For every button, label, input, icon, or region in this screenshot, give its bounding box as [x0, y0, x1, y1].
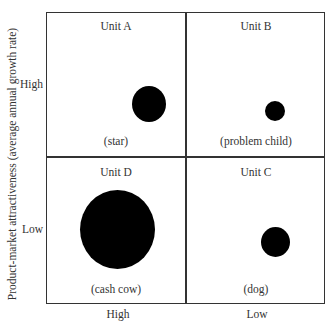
x-tick-high: High	[107, 308, 130, 320]
y-axis-title: Product-market attractiveness (average a…	[6, 28, 18, 300]
unit-d-bubble	[80, 190, 155, 269]
horizontal-divider	[46, 156, 325, 158]
unit-d-label: Unit D	[100, 166, 132, 178]
unit-a-label: Unit A	[101, 20, 132, 32]
unit-c-bubble	[261, 227, 290, 257]
unit-b-label: Unit B	[241, 20, 272, 32]
unit-a-category: (star)	[104, 135, 128, 147]
unit-d-category: (cash cow)	[91, 283, 141, 295]
x-tick-low: Low	[246, 308, 267, 320]
y-tick-high: High	[20, 78, 43, 90]
vertical-divider	[185, 12, 187, 304]
unit-c-label: Unit C	[241, 166, 272, 178]
y-tick-low: Low	[22, 223, 43, 235]
unit-c-category: (dog)	[244, 283, 269, 295]
unit-a-bubble	[132, 86, 166, 122]
unit-b-category: (problem child)	[220, 135, 292, 147]
unit-b-bubble	[265, 101, 285, 121]
